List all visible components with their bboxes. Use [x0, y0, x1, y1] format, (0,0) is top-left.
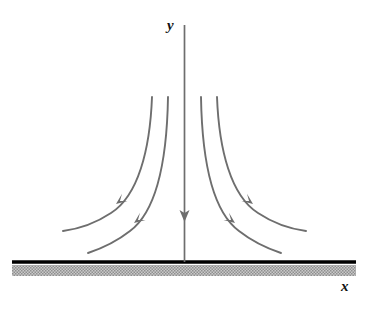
y-axis-label: y	[167, 18, 174, 33]
x-axis-label: x	[341, 279, 349, 294]
field-line-right-inner	[201, 97, 281, 253]
arrowhead-left-inner-icon	[134, 213, 146, 223]
arrowhead-right-inner-icon	[223, 213, 235, 223]
ground-hatch-band	[12, 265, 356, 276]
field-line-diagram: y x	[0, 0, 368, 311]
field-line-left-inner	[88, 97, 168, 253]
field-line-left-outer	[63, 97, 152, 231]
field-line-right-outer	[217, 97, 306, 231]
diagram-canvas	[0, 0, 368, 311]
